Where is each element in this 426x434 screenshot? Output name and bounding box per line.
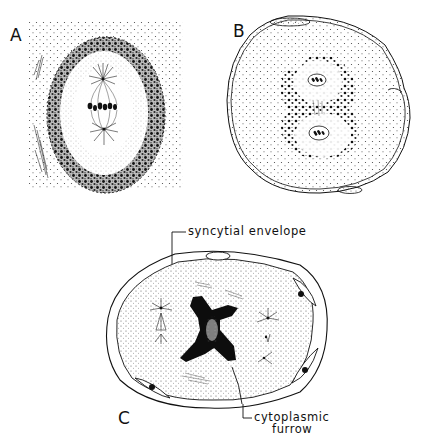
- panel-b-envelope-nucleus-bottom: [338, 187, 362, 194]
- panel-b-envelope-nucleus-top: [270, 18, 310, 26]
- syncytial-envelope-annotation: syncytial envelope: [188, 226, 306, 238]
- panel-b: [227, 16, 410, 194]
- panel-a: [29, 22, 183, 193]
- panel-a-label: A: [10, 27, 22, 44]
- panel-c-label: C: [118, 410, 130, 427]
- figure-canvas: [0, 0, 426, 434]
- cytoplasmic-furrow-annotation-line2: furrow: [272, 424, 312, 434]
- panel-c: [107, 251, 328, 408]
- panel-c-envelope-nucleus-top: [206, 252, 230, 260]
- panel-b-label: B: [233, 23, 245, 40]
